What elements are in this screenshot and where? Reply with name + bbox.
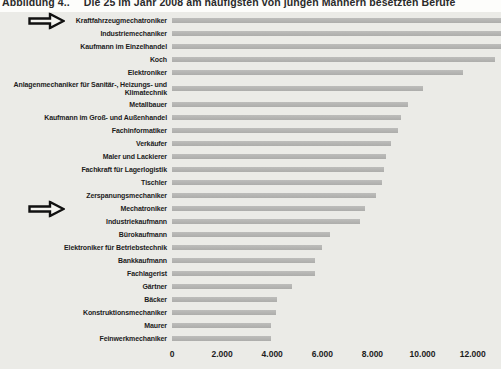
bar [172,57,495,62]
bar-track [172,86,501,91]
category-label: Elektroniker für Betriebstechnik [0,244,172,252]
category-label: Zerspanungsmechaniker [0,192,172,200]
x-tick-label: 8.000 [362,349,383,359]
chart-row: Fachinformatiker [0,124,501,137]
chart-row: Mechatroniker [0,202,501,215]
chart-row: Elektroniker für Betriebstechnik [0,241,501,254]
category-label: Industriemechaniker [0,30,172,38]
bar-track [172,102,501,107]
bar-track [172,245,501,250]
chart-row: Maurer [0,319,501,332]
bar-track [172,141,501,146]
bar [172,154,386,159]
category-label: Fachlagerist [0,270,172,278]
chart-row: Zerspanungsmechaniker [0,189,501,202]
category-label: Koch [0,56,172,64]
chart-rows: KraftfahrzeugmechatronikerIndustriemecha… [0,14,501,345]
bar-track [172,154,501,159]
category-label: Gärtner [0,283,172,291]
bar [172,336,271,341]
bar [172,206,365,211]
bar-track [172,206,501,211]
chart-row: Kaufmann im Einzelhandel [0,40,501,53]
bar-track [172,180,501,185]
bar-chart: KraftfahrzeugmechatronikerIndustriemecha… [0,12,501,369]
figure-title-text: Die 25 im Jahr 2008 am häufigsten von ju… [84,0,456,8]
figure-title: Abbildung 4..Die 25 im Jahr 2008 am häuf… [2,0,501,8]
chart-row: Gärtner [0,280,501,293]
bar-track [172,193,501,198]
x-tick-label: 4.000 [262,349,283,359]
bar [172,70,463,75]
category-label: Kaufmann im Einzelhandel [0,43,172,51]
bar [172,193,376,198]
chart-row: Elektroniker [0,66,501,79]
category-label: Bürokaufmann [0,231,172,239]
bar [172,128,398,133]
chart-row: Bäcker [0,293,501,306]
bar-track [172,57,501,62]
chart-row: Koch [0,53,501,66]
x-tick-label: 0 [170,349,175,359]
bar-track [172,115,501,120]
bar [172,297,277,302]
bar [172,258,315,263]
x-tick-label: 10.000 [410,349,436,359]
chart-row: Kaufmann im Groß- und Außenhandel [0,111,501,124]
bar-track [172,310,501,315]
bar-track [172,128,501,133]
bar [172,323,271,328]
chart-row: Metallbauer [0,98,501,111]
category-label: Anlagenmechaniker für Sanitär-, Heizungs… [0,81,172,97]
bar-track [172,31,501,36]
x-axis-ticks: 02.0004.0006.0008.00010.00012.000 [172,349,501,363]
category-label: Kaufmann im Groß- und Außenhandel [0,114,172,122]
bar-track [172,219,501,224]
category-label: Feinwerkmechaniker [0,335,172,343]
bar-track [172,70,501,75]
bar [172,141,391,146]
bar [172,31,501,36]
bar-track [172,258,501,263]
category-label: Tischler [0,179,172,187]
bar [172,102,408,107]
chart-row: Feinwerkmechaniker [0,332,501,345]
chart-row: Fachlagerist [0,267,501,280]
bar [172,18,501,23]
chart-row: Fachkraft für Lagerlogistik [0,163,501,176]
bar-track [172,284,501,289]
chart-row: Maler und Lackierer [0,150,501,163]
chart-row: Anlagenmechaniker für Sanitär-, Heizungs… [0,79,501,98]
chart-row: Industriemechaniker [0,27,501,40]
bar [172,44,501,49]
bar [172,219,360,224]
bar-track [172,297,501,302]
bar-track [172,44,501,49]
x-tick-label: 6.000 [312,349,333,359]
figure-number: Abbildung 4.. [2,0,70,8]
chart-row: Bürokaufmann [0,228,501,241]
bar [172,232,330,237]
x-tick-label: 12.000 [460,349,486,359]
chart-row: Kraftfahrzeugmechatroniker [0,14,501,27]
bar [172,115,401,120]
bar [172,86,423,91]
bar [172,271,315,276]
chart-row: Industriekaufmann [0,215,501,228]
category-label: Kraftfahrzeugmechatroniker [0,17,172,25]
category-label: Verkäufer [0,140,172,148]
category-label: Mechatroniker [0,205,172,213]
category-label: Metallbauer [0,101,172,109]
category-label: Maurer [0,322,172,330]
chart-row: Bankkaufmann [0,254,501,267]
bar-track [172,232,501,237]
category-label: Fachinformatiker [0,127,172,135]
bar [172,167,384,172]
bar-track [172,271,501,276]
category-label: Fachkraft für Lagerlogistik [0,166,172,174]
bar-track [172,323,501,328]
bar [172,310,276,315]
bar-track [172,336,501,341]
category-label: Maler und Lackierer [0,153,172,161]
bar [172,284,292,289]
